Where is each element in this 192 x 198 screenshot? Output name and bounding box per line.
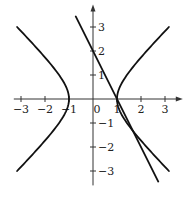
x-tick-label: 0 — [94, 103, 101, 116]
x-axis-arrow-icon — [176, 97, 183, 102]
x-tick-label: −2 — [37, 103, 53, 116]
x-tick-label: −3 — [13, 103, 29, 116]
y-tick-label: 3 — [98, 21, 105, 34]
y-tick-label: −1 — [98, 117, 114, 130]
y-tick-label: −3 — [98, 165, 114, 178]
x-tick-label: 3 — [162, 103, 169, 116]
chart: −3−2−10123 −3−2−1123 — [0, 0, 192, 198]
y-tick-label: 2 — [98, 45, 105, 58]
y-axis-arrow-icon — [91, 4, 96, 11]
x-tick-label: 2 — [138, 103, 145, 116]
y-tick-label: −2 — [98, 141, 114, 154]
